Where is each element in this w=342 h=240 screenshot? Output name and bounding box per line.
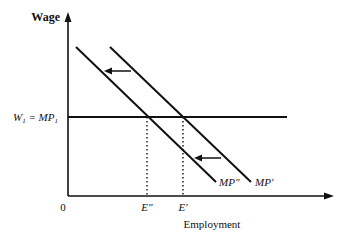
wage-line-label: W1 = MP1 — [13, 111, 58, 125]
labor-market-diagram: Wage 0 Employment W1 = MP1 MP″ MP′ — [0, 0, 342, 240]
lower-shift-arrow-icon — [194, 155, 221, 162]
x-axis-arrow-icon — [324, 193, 334, 200]
e-prime-label: E′ — [177, 201, 188, 213]
origin-label: 0 — [60, 201, 66, 213]
x-axis-label: Employment — [184, 218, 241, 230]
x-axis: 0 Employment — [60, 193, 334, 231]
y-axis-arrow-icon — [65, 12, 72, 22]
e-double-prime-label: E″ — [140, 201, 153, 213]
mp-double-prime-label: MP″ — [218, 176, 240, 188]
y-axis-label: Wage — [31, 10, 60, 24]
e-prime-dropline: E′ — [177, 117, 188, 213]
y-axis: Wage — [31, 10, 71, 196]
e-double-prime-dropline: E″ — [140, 117, 153, 213]
upper-shift-arrow-icon — [104, 68, 131, 75]
mp-prime-label: MP′ — [254, 176, 274, 188]
